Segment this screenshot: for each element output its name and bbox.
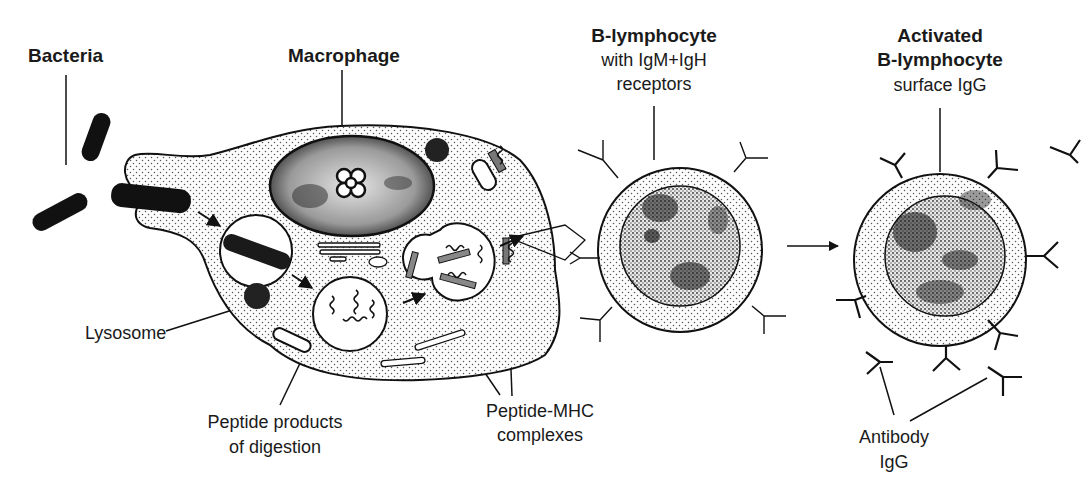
bacterium: [79, 110, 113, 163]
receptor-icon: [734, 142, 768, 172]
nucleolus: [337, 169, 365, 197]
chromatin-patch: [708, 206, 728, 234]
antibody-leader-line-b: [910, 378, 987, 421]
chromatin-patch: [384, 176, 412, 190]
macrophage-label: Macrophage: [288, 45, 400, 66]
bacteria-group: [29, 110, 113, 234]
bacteria-label: Bacteria: [28, 45, 103, 66]
antibody-label-line2: IgG: [879, 452, 908, 472]
receptor-icon: [580, 307, 612, 342]
activated-b-lymphocyte-title2: B-lymphocyte: [877, 49, 1003, 70]
receptor-icon: [570, 252, 600, 264]
antibody-icon: [988, 150, 1018, 178]
peptide-vesicle: [313, 277, 387, 351]
b-lymphocyte-title: B-lymphocyte: [591, 25, 717, 46]
chromatin-patch: [292, 184, 328, 208]
antibody-icon: [1026, 242, 1058, 268]
antibody-icon: [836, 296, 866, 318]
chromatin-patch: [642, 194, 678, 222]
free-antibody-icon: [866, 352, 893, 374]
antibody-icon: [988, 320, 1018, 350]
activated-b-lymphocyte-title1: Activated: [897, 25, 983, 46]
antibody-label-line1: Antibody: [859, 427, 929, 447]
chromatin-patch: [942, 250, 978, 270]
antibody-icon: [933, 345, 960, 371]
chromatin-patch: [670, 262, 710, 290]
chromatin-patch: [644, 229, 660, 243]
receptor-icon: [578, 140, 618, 178]
granule: [425, 138, 449, 162]
peptide-mhc-line1: Peptide-MHC: [486, 401, 594, 421]
free-antibody-icon: [1050, 140, 1080, 163]
antibody-leader-line-a: [880, 367, 894, 415]
bacterium: [29, 190, 90, 234]
peptide-mhc-line2: complexes: [497, 425, 583, 445]
activated-b-lymphocyte-cell: [854, 174, 1026, 346]
receptor-icon: [752, 306, 786, 334]
lysosome: [244, 283, 270, 309]
b-lymphocyte-line2: receptors: [616, 74, 691, 94]
activated-b-lymphocyte-line1: surface IgG: [893, 75, 986, 95]
diagram-svg: Bacteria Macrophage B-lymphocyte with Ig…: [0, 0, 1092, 502]
free-antibody-icon: [988, 367, 1022, 396]
peptide-products-line2: of digestion: [229, 437, 321, 457]
peptide-products-line1: Peptide products: [207, 412, 342, 432]
b-lymphocyte-line1: with IgM+IgH: [600, 50, 707, 70]
antibody-icon: [880, 153, 905, 178]
lysosome-label: Lysosome: [85, 323, 166, 343]
b-lymphocyte-cell: [598, 168, 762, 332]
chromatin-patch: [959, 190, 991, 210]
diagram-canvas: Bacteria Macrophage B-lymphocyte with Ig…: [0, 0, 1092, 502]
chromatin-patch: [916, 280, 964, 304]
macrophage-cell: [110, 125, 560, 380]
chromatin-patch: [893, 212, 937, 252]
